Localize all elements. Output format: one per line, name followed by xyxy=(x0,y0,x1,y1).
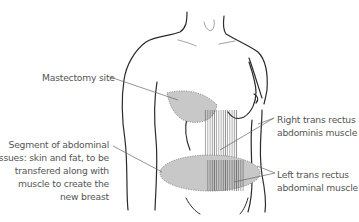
label-left-rectus: Left trans rectus abdominal muscle xyxy=(277,168,358,194)
label-line: Right trans rectus xyxy=(277,113,357,126)
label-abdominal-segment: Segment of abdominal tissues: skin and f… xyxy=(0,138,109,203)
label-line: abdominal muscle xyxy=(277,181,358,194)
label-line: transfered along with xyxy=(0,164,109,177)
label-line: abdominis muscle xyxy=(277,126,357,139)
label-line: new breast xyxy=(0,190,109,203)
label-line: tissues: skin and fat, to be xyxy=(0,151,109,164)
label-line: Left trans rectus xyxy=(277,168,358,181)
label-line: Segment of abdominal xyxy=(0,138,109,151)
label-right-rectus: Right trans rectus abdominis muscle xyxy=(277,113,357,139)
label-line: muscle to create the xyxy=(0,177,109,190)
label-mastectomy-site: Mastectomy site xyxy=(42,71,115,84)
label-text: Mastectomy site xyxy=(42,72,115,83)
